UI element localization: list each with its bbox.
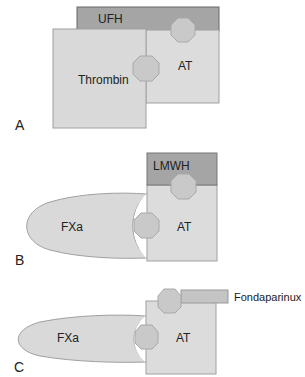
anticoagulant-mechanism-diagram: UFH Thrombin AT A LMWH FXa AT B Fondapar… bbox=[0, 0, 305, 377]
heparin-binding-site-octagon-b bbox=[171, 174, 196, 199]
heparin-binding-site-octagon-a bbox=[171, 18, 195, 42]
heparin-binding-site-octagon-c bbox=[158, 289, 181, 313]
thrombin-label: Thrombin bbox=[78, 73, 129, 87]
at-label-b: AT bbox=[177, 220, 192, 234]
fxa-c bbox=[18, 315, 146, 362]
reactive-site-octagon-c bbox=[135, 325, 158, 349]
fxa-b bbox=[27, 193, 147, 258]
reactive-site-octagon-b bbox=[134, 213, 159, 238]
fondaparinux-chain bbox=[181, 290, 228, 303]
fondaparinux-label: Fondaparinux bbox=[234, 291, 302, 303]
reactive-site-octagon-a bbox=[133, 56, 159, 81]
panel-b: LMWH FXa AT B bbox=[15, 153, 217, 268]
lmwh-label: LMWH bbox=[153, 159, 190, 173]
fxa-label-b: FXa bbox=[61, 220, 83, 234]
ufh-label: UFH bbox=[98, 12, 123, 26]
panel-label-a: A bbox=[15, 117, 25, 133]
at-label-a: AT bbox=[178, 59, 193, 73]
fxa-label-c: FXa bbox=[57, 331, 79, 345]
panel-label-b: B bbox=[15, 252, 24, 268]
panel-label-c: C bbox=[14, 359, 24, 375]
panel-c: Fondaparinux FXa AT C bbox=[14, 289, 302, 375]
panel-a: UFH Thrombin AT A bbox=[15, 7, 219, 133]
at-label-c: AT bbox=[176, 331, 191, 345]
